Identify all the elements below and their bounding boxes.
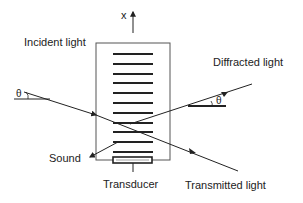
transmitted-light-label: Transmitted light [185,180,266,191]
incident-light-label: Incident light [24,37,86,48]
acousto-optic-diagram [0,0,303,203]
transmitted-arrowhead [189,148,196,154]
sound-wavefronts [113,54,153,152]
diffracted-light-label: Diffracted light [213,57,283,68]
diffracted-arrowhead [221,92,228,97]
sound-arrow [90,142,118,157]
x-axis-label: x [121,10,127,21]
transducer-element [113,157,152,172]
theta-left-label: θ [16,89,22,99]
sound-label: Sound [49,153,81,164]
transducer-label: Transducer [103,179,158,190]
theta-right-label: θ [216,96,222,106]
